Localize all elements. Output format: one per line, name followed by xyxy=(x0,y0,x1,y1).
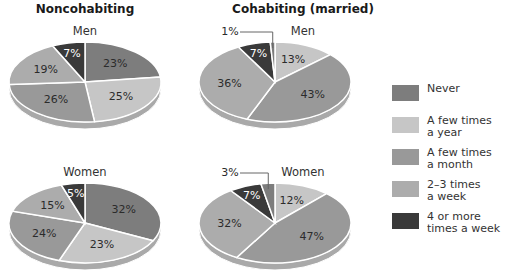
slice-label: 7% xyxy=(243,189,260,202)
legend-label: 4 or more times a week xyxy=(427,211,505,235)
legend-label: A few times a month xyxy=(427,147,505,171)
slice-label: 43% xyxy=(300,88,324,101)
legend-label: Never xyxy=(427,83,505,95)
slice-label: 15% xyxy=(40,199,64,212)
noncohabiting-women-subtitle: Women xyxy=(25,165,145,179)
pie-cohabiting-men: 13%43%36%7%1% xyxy=(190,40,370,140)
legend-label: A few times a year xyxy=(427,115,505,139)
pie-cohabiting-women: 12%47%32%7%3% xyxy=(190,181,370,280)
noncohabiting-title: Noncohabiting xyxy=(25,2,145,16)
legend-swatch xyxy=(392,117,419,133)
cohabiting-women-subtitle: Women xyxy=(243,165,363,179)
legend-swatch xyxy=(392,213,419,229)
legend-item-4-or-more-week: 4 or more times a week xyxy=(392,211,505,243)
slice-label: 12% xyxy=(279,194,303,207)
slice-label: 1% xyxy=(221,25,238,38)
legend: Never A few times a year A few times a m… xyxy=(392,83,505,243)
legend-swatch xyxy=(392,149,419,165)
slice-label: 47% xyxy=(299,230,323,243)
legend-item-few-times-year: A few times a year xyxy=(392,115,505,147)
pie-noncohabiting-women: 32%23%24%15%5% xyxy=(0,181,180,280)
cohabiting-men-subtitle: Men xyxy=(243,24,363,38)
cohabiting-title: Cohabiting (married) xyxy=(228,2,378,16)
legend-label: 2–3 times a week xyxy=(427,179,505,203)
slice-label: 32% xyxy=(217,217,241,230)
slice-label: 19% xyxy=(34,63,58,76)
slice-label: 23% xyxy=(103,57,127,70)
slice-label: 24% xyxy=(32,227,56,240)
pie-noncohabiting-men: 23%25%26%19%7% xyxy=(0,40,180,140)
legend-item-never: Never xyxy=(392,83,505,115)
noncohabiting-men-subtitle: Men xyxy=(25,24,145,38)
slice-label: 36% xyxy=(217,77,241,90)
slice-label: 32% xyxy=(112,203,136,216)
slice-label: 7% xyxy=(63,47,80,60)
legend-swatch xyxy=(392,85,419,101)
legend-swatch xyxy=(392,181,419,197)
slice-label: 13% xyxy=(281,53,305,66)
legend-item-few-times-month: A few times a month xyxy=(392,147,505,179)
slice-label: 5% xyxy=(67,187,84,200)
slice-label: 23% xyxy=(90,238,114,251)
legend-item-2-3-times-week: 2–3 times a week xyxy=(392,179,505,211)
slice-label: 7% xyxy=(250,47,267,60)
slice-label: 3% xyxy=(221,166,238,179)
slice-label: 25% xyxy=(109,90,133,103)
slice-label: 26% xyxy=(44,93,68,106)
